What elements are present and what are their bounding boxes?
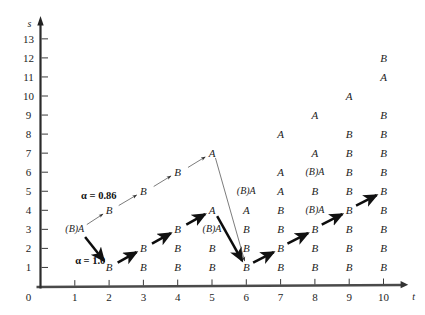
grid-point-label: B (380, 205, 387, 216)
y-tick-label: 12 (23, 52, 34, 64)
grid-point-label: (B)A (203, 224, 222, 234)
thin-descent-path-segment (215, 158, 244, 261)
grid-point-label: B (209, 262, 216, 273)
grid-point-label: B (312, 262, 319, 273)
grid-point-label: B (277, 243, 284, 254)
grid-point-label: (B)A (65, 224, 84, 234)
grid-point-label: B (140, 186, 147, 197)
grid-point-label: B (346, 148, 353, 159)
alpha-10-path-segment (322, 214, 343, 224)
y-tick-label: 6 (26, 166, 32, 178)
grid-point-label: B (174, 262, 181, 273)
y-tick-label: 7 (26, 147, 32, 159)
trajectory-paths (85, 157, 377, 263)
alpha-086-path-segment (87, 214, 103, 224)
x-tick-label: 7 (278, 291, 284, 303)
y-axis-arrowhead (37, 16, 43, 26)
grid-point-label: B (380, 129, 387, 140)
grid-point-label: B (346, 224, 353, 235)
grid-point-label: B (312, 243, 319, 254)
grid-point-label: B (312, 186, 319, 197)
alpha-annotation: α = 1.0 (75, 254, 105, 265)
grid-point-label: A (312, 148, 319, 159)
alpha-10-path-segment (152, 233, 171, 243)
grid-point-label: B (174, 167, 181, 178)
y-tick-label: 10 (23, 90, 34, 102)
grid-point-label: A (209, 148, 216, 159)
grid-point-label: (B)A (305, 167, 324, 177)
grid-point-label: B (346, 129, 353, 140)
grid-point-label: B (380, 52, 387, 63)
x-tick-label: 6 (244, 291, 250, 303)
grid-point-label: B (140, 243, 147, 254)
grid-point-label: A (346, 91, 353, 102)
grid-point-label: B (380, 110, 387, 121)
grid-point-label: B (312, 224, 319, 235)
y-tick-label: 4 (26, 204, 32, 216)
grid-point-label: B (174, 224, 181, 235)
alpha-10-path-segment (356, 195, 377, 205)
grid-point-label: B (243, 243, 250, 254)
grid-point-label: B (106, 262, 113, 273)
x-tick-label: 5 (209, 291, 215, 303)
grid-point-label: A (380, 71, 387, 82)
x-tick-label: 3 (141, 291, 147, 303)
grid-point-label: B (277, 262, 284, 273)
grid-point-label: B (380, 148, 387, 159)
alpha-086-path-segment (188, 157, 205, 167)
grid-point-label: B (346, 186, 353, 197)
grid-point-label: B (174, 243, 181, 254)
grid-point-label: A (312, 110, 319, 121)
grid-point-label: B (346, 262, 353, 273)
alpha-10-path-segment (118, 252, 137, 262)
x-tick-label: 8 (312, 291, 318, 303)
origin-label: 0 (26, 291, 32, 303)
alpha-10-path-segment (287, 233, 308, 243)
x-tick-label: 4 (175, 291, 181, 303)
x-axis-name: t (412, 290, 415, 301)
grid-point-label: B (346, 167, 353, 178)
grid-point-label: (B)A (237, 186, 256, 196)
y-tick-label: 3 (26, 223, 32, 235)
grid-point-label: B (380, 186, 387, 197)
grid-point-label: A (277, 129, 284, 140)
grid-point-label: B (346, 243, 353, 254)
y-tick-label: 13 (23, 33, 34, 45)
x-axis-line (37, 285, 403, 287)
grid-point-label: B (140, 262, 147, 273)
y-tick-label: 1 (26, 261, 32, 273)
x-axis-arrowhead (401, 281, 409, 288)
grid-point-label: A (209, 205, 216, 216)
grid-point-label: B (243, 262, 250, 273)
grid-point-label: B (209, 243, 216, 254)
grid-point-label: B (243, 224, 250, 235)
x-tick-label: 1 (72, 291, 78, 303)
grid-point-label: B (380, 224, 387, 235)
grid-point-label: B (277, 224, 284, 235)
alpha-086-path-segment (119, 195, 137, 205)
grid-point-label: B (277, 205, 284, 216)
grid-point-label: A (277, 167, 284, 178)
grid-point-label: B (380, 167, 387, 178)
y-tick-label: 11 (23, 71, 34, 83)
y-tick-label: 8 (26, 128, 32, 140)
y-tick-label: 9 (26, 109, 32, 121)
grid-point-label: B (380, 262, 387, 273)
grid-point-label: B (106, 205, 113, 216)
plot-area: 12345678910123456789101112130st(B)ABBBAB… (0, 0, 425, 315)
x-tick-label: 10 (378, 291, 389, 303)
grid-point-label: (B)A (305, 205, 324, 215)
grid-point-label: A (277, 186, 284, 197)
grid-point-label: B (346, 205, 353, 216)
y-tick-label: 5 (26, 185, 32, 197)
alpha-086-path-segment (154, 176, 171, 186)
x-tick-label: 9 (346, 291, 352, 303)
grid-point-label: A (243, 205, 250, 216)
x-tick-label: 2 (106, 291, 112, 303)
alpha-annotation: α = 0.86 (81, 190, 116, 201)
y-axis-name: s (28, 17, 32, 28)
y-tick-label: 2 (26, 242, 32, 254)
grid-point-label: B (380, 243, 387, 254)
alpha-10-path-segment (253, 252, 274, 262)
